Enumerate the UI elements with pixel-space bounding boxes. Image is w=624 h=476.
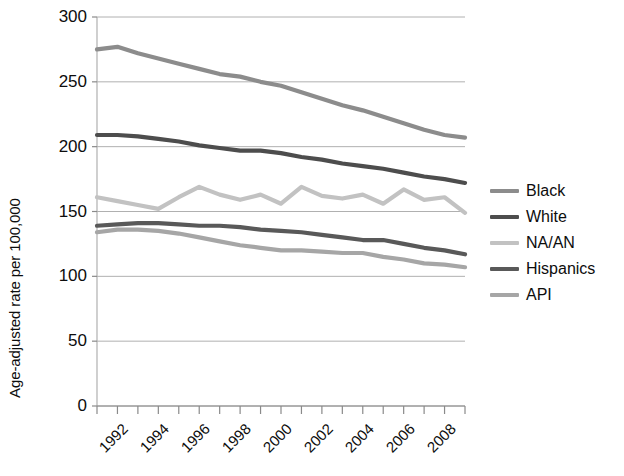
line-chart: Age-adjusted rate per 100,000 0501001502… [0, 0, 624, 476]
legend-item-api[interactable]: API [490, 282, 624, 308]
series-line-black [97, 47, 465, 138]
gridlines [97, 17, 465, 406]
y-axis-tick-label: 150 [27, 203, 87, 220]
y-axis-tick-label: 300 [27, 8, 87, 25]
legend-item-label: API [526, 287, 552, 303]
legend-item-label: Black [526, 183, 565, 199]
legend-swatch-icon [490, 293, 519, 297]
legend-swatch-icon [490, 241, 519, 245]
legend-item-label: NA/AN [526, 235, 575, 251]
y-axis-tick-label: 250 [27, 73, 87, 90]
legend-item-white[interactable]: White [490, 204, 624, 230]
legend-item-label: Hispanics [526, 261, 595, 277]
y-axis-tick-label: 50 [27, 332, 87, 349]
y-axis-title: Age-adjusted rate per 100,000 [6, 198, 23, 398]
legend-swatch-icon [490, 267, 519, 271]
y-axis-tick-label: 0 [27, 397, 87, 414]
legend-item-hispanics[interactable]: Hispanics [490, 256, 624, 282]
legend-item-na-an[interactable]: NA/AN [490, 230, 624, 256]
legend-item-black[interactable]: Black [490, 178, 624, 204]
series-line-api [97, 230, 465, 268]
y-axis-ticks [92, 17, 97, 406]
series-line-white [97, 135, 465, 183]
series-line-na-an [97, 187, 465, 213]
chart-legend: BlackWhiteNA/ANHispanicsAPI [490, 178, 624, 308]
legend-item-label: White [526, 209, 567, 225]
y-axis-tick-label: 100 [27, 267, 87, 284]
y-axis-tick-label: 200 [27, 138, 87, 155]
legend-swatch-icon [490, 189, 519, 193]
legend-swatch-icon [490, 215, 519, 219]
series-lines [97, 47, 465, 267]
